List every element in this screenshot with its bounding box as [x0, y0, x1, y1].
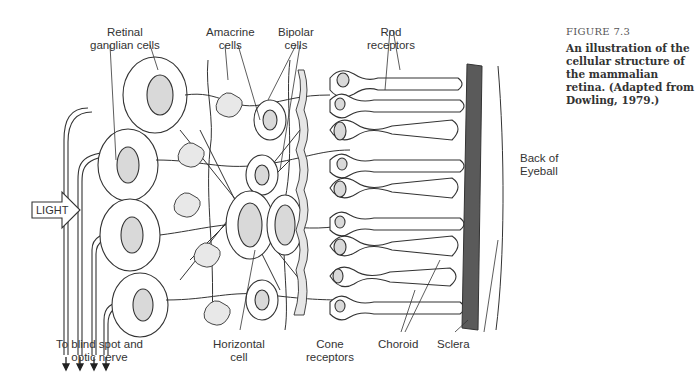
label-choroid: Choroid	[378, 338, 418, 351]
label-line: Horizontal	[213, 338, 265, 351]
figure-caption: FIGURE 7.3 An illustration of the cellul…	[566, 26, 698, 107]
choroid	[462, 64, 482, 330]
label-rod: Rod receptors	[367, 26, 415, 52]
label-sclera: Sclera	[437, 338, 470, 351]
label-cone: Cone receptors	[306, 338, 354, 364]
label-line: optic nerve	[56, 351, 143, 364]
label-blind-spot: To blind spot and optic nerve	[56, 338, 143, 364]
label-line: cell	[213, 351, 265, 364]
label-line: ganglian cells	[90, 39, 160, 52]
label-line: receptors	[367, 39, 415, 52]
caption-text: An illustration of the cellular structur…	[566, 42, 698, 107]
label-retinal-ganglian: Retinal ganglian cells	[90, 26, 160, 52]
label-line: To blind spot and	[56, 338, 143, 351]
label-line: Retinal	[90, 26, 160, 39]
label-line: Bipolar	[278, 26, 314, 39]
horizontal-cell	[294, 70, 308, 315]
label-line: Rod	[367, 26, 415, 39]
label-line: Amacrine	[206, 26, 255, 39]
figure-number: FIGURE 7.3	[566, 26, 698, 37]
label-line: Back of	[520, 152, 558, 165]
label-line: cells	[206, 39, 255, 52]
label-bipolar: Bipolar cells	[278, 26, 314, 52]
label-horizontal: Horizontal cell	[213, 338, 265, 364]
label-light: LIGHT	[36, 204, 68, 217]
label-line: receptors	[306, 351, 354, 364]
label-line: Eyeball	[520, 165, 558, 178]
label-back-of-eyeball: Back of Eyeball	[520, 152, 558, 178]
sclera	[496, 66, 503, 330]
label-line: Cone	[306, 338, 354, 351]
label-line: cells	[278, 39, 314, 52]
label-amacrine: Amacrine cells	[206, 26, 255, 52]
